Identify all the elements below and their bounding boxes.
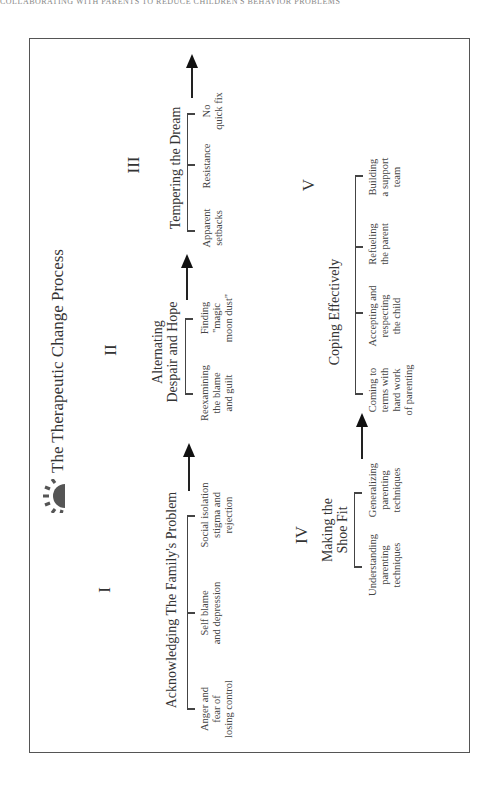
stage-1-bracket [187, 515, 188, 710]
stage-3-item: Apparentsetbacks [201, 198, 225, 258]
stage-1-item: Anger andfear oflosing control [199, 668, 235, 750]
stage-2-title: AlternatingDespair and Hope [150, 296, 180, 408]
arrow-right-icon [183, 443, 195, 457]
stage-1-title: Acknowledging The Family's Problem [164, 469, 179, 731]
stage-4-title: Making theShoe Fit [320, 485, 350, 575]
stage-4-bracket [354, 492, 355, 568]
stage-5-item: Refuelingthe parent [367, 213, 391, 275]
stage-1-item: Self blameand depression [199, 570, 223, 656]
diagram-canvas: The Therapeutic Change Process I Acknowl… [29, 38, 470, 753]
arrow-right-icon [186, 54, 198, 68]
stage-2-item: Reexaminingthe blameand guilt [199, 355, 235, 431]
stage-2-bracket [185, 318, 186, 395]
stage-5-numeral: V [299, 155, 319, 215]
stage-3-bracket [187, 113, 188, 232]
stage-3-item: Resistance [201, 136, 213, 196]
stage-4-item: Generalizingparentingtechniques [367, 455, 403, 525]
diagram-title: The Therapeutic Change Process [48, 249, 68, 473]
stage-1-arrow [183, 443, 195, 491]
stage-5-item: Buildinga supportteam [367, 146, 403, 208]
arrow-right-icon [181, 254, 193, 268]
stage-3-title: Tempering the Dream [168, 93, 183, 243]
running-head: COLLABORATING WITH PARENTS TO REDUCE CHI… [0, 0, 400, 6]
stage-3-item: Noquick fix [201, 84, 225, 138]
stage-1-item: Social isolationstigma andrejection [199, 472, 235, 558]
stage-4-item: Understandingparentingtechniques [367, 527, 403, 603]
stage-5-item: Accepting andrespectingthe child [367, 277, 403, 355]
stage-3-numeral: III [124, 135, 144, 195]
stage-2-numeral: II [101, 320, 121, 380]
stage-3-arrow [186, 54, 198, 98]
stage-2-arrow [181, 254, 193, 300]
stage-5-item: Coming toterms withhard workof parenting [367, 357, 415, 423]
stage-4-numeral: IV [292, 505, 312, 565]
sunburst-icon [43, 479, 65, 513]
stage-2-item: Finding"magicmoon dust" [199, 283, 235, 353]
stage-1-numeral: I [95, 560, 115, 620]
stage-5-title: Coping Effectively [327, 239, 342, 385]
stage-5-bracket [355, 175, 356, 395]
